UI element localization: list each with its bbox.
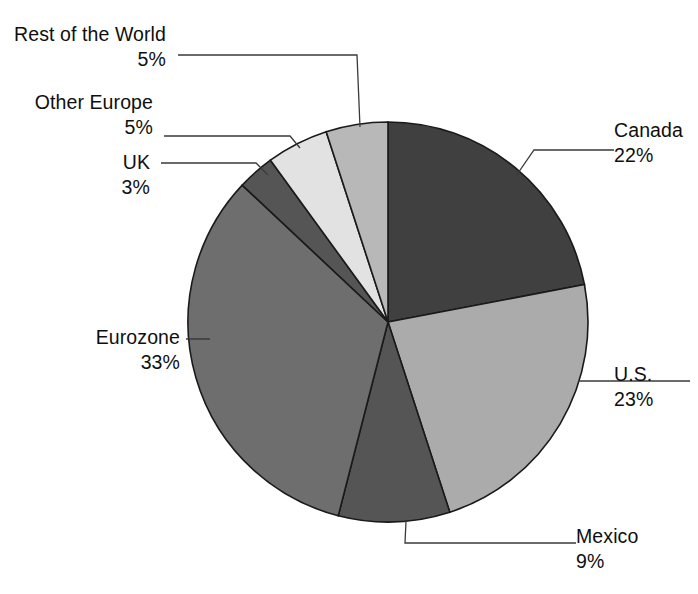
slice-label-us: U.S. 23% bbox=[614, 362, 653, 412]
slice-label-us-name: U.S. bbox=[614, 363, 652, 385]
slice-label-rest-of-the-world-name: Rest of the World bbox=[14, 23, 166, 45]
slice-label-mexico-value: 9% bbox=[576, 549, 638, 574]
slice-label-rest-of-the-world: Rest of the World 5% bbox=[14, 22, 166, 72]
leader-line-canada bbox=[516, 150, 614, 176]
slice-label-uk-value: 3% bbox=[122, 175, 150, 200]
slice-label-rest-of-the-world-value: 5% bbox=[14, 47, 166, 72]
leader-line-mexico bbox=[405, 521, 576, 543]
pie-chart: Rest of the World 5% Other Europe 5% UK … bbox=[0, 0, 698, 594]
slice-label-uk: UK 3% bbox=[122, 150, 150, 200]
pie-slices bbox=[188, 122, 588, 522]
slice-label-other-europe-value: 5% bbox=[35, 115, 153, 140]
leader-line-rest-of-the-world bbox=[178, 55, 360, 127]
slice-label-other-europe-name: Other Europe bbox=[35, 91, 153, 113]
slice-label-canada-value: 22% bbox=[614, 143, 683, 168]
slice-label-mexico-name: Mexico bbox=[576, 525, 638, 547]
slice-label-eurozone-value: 33% bbox=[96, 350, 180, 375]
leader-line-other-europe bbox=[164, 136, 300, 148]
slice-label-eurozone-name: Eurozone bbox=[96, 326, 180, 348]
slice-label-uk-name: UK bbox=[123, 151, 150, 173]
slice-label-canada: Canada 22% bbox=[614, 118, 683, 168]
slice-label-canada-name: Canada bbox=[614, 119, 683, 141]
leader-line-uk bbox=[161, 163, 268, 175]
slice-label-mexico: Mexico 9% bbox=[576, 524, 638, 574]
slice-label-eurozone: Eurozone 33% bbox=[96, 325, 180, 375]
slice-label-us-value: 23% bbox=[614, 387, 653, 412]
slice-label-other-europe: Other Europe 5% bbox=[35, 90, 153, 140]
